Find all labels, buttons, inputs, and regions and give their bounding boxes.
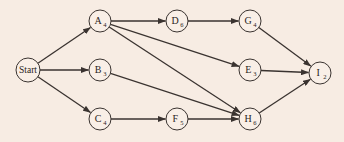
edge-start-to-c	[38, 77, 91, 113]
node-f: F5	[166, 108, 188, 130]
node-duration: 2	[323, 73, 326, 80]
node-i: I2	[309, 62, 331, 84]
node-label: A	[95, 15, 103, 26]
edge-e-to-i	[261, 71, 309, 73]
node-e: E3	[239, 59, 261, 81]
node-label: C	[95, 113, 102, 124]
edge-a-to-h	[109, 27, 240, 113]
node-c: C4	[89, 108, 111, 130]
edge-g-to-i	[259, 28, 311, 67]
edge-h-to-i	[259, 79, 310, 113]
node-g: G4	[239, 10, 261, 32]
node-label: F	[172, 113, 178, 124]
node-label: Start	[19, 65, 37, 75]
node-label: G	[245, 15, 252, 26]
node-a: A4	[89, 10, 111, 32]
node-label: H	[245, 113, 252, 124]
node-d: D6	[166, 10, 188, 32]
node-b: B3	[89, 59, 111, 81]
node-label: E	[245, 64, 251, 75]
node-duration: 5	[180, 119, 183, 126]
node-label: B	[95, 64, 102, 75]
node-duration: 3	[253, 70, 256, 77]
node-duration: 3	[103, 70, 106, 77]
node-start: Start	[16, 58, 40, 82]
edge-start-to-a	[38, 28, 91, 64]
node-circle	[309, 62, 331, 84]
network-diagram: StartA4B3C4D6G4E3F5H6I2	[0, 0, 344, 142]
diagram-svg: StartA4B3C4D6G4E3F5H6I2	[0, 0, 344, 142]
node-label: D	[172, 15, 179, 26]
edges-layer	[38, 21, 311, 119]
node-label: I	[317, 67, 320, 78]
node-h: H6	[239, 108, 261, 130]
